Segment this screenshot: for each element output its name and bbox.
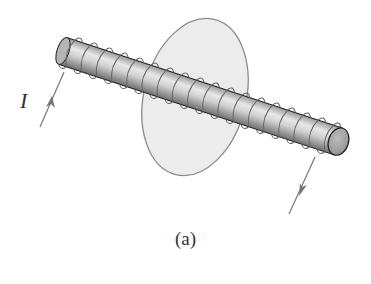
arrow-down-icon xyxy=(299,183,307,196)
current-out-wire xyxy=(289,157,315,214)
current-label: I xyxy=(20,88,27,114)
current-in-wire xyxy=(40,72,64,127)
arrow-up-icon xyxy=(46,96,55,108)
figure-caption: (a) xyxy=(0,228,371,250)
